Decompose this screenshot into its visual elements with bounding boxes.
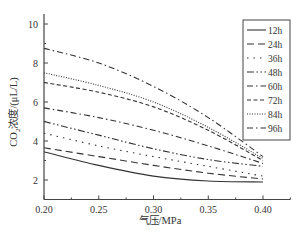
series-line-36h <box>44 133 263 176</box>
svg-text:96h: 96h <box>268 124 283 134</box>
y-tick-label: 6 <box>33 97 38 108</box>
line-chart: 2468100.200.250.300.350.40 12h24h36h48h6… <box>0 0 303 240</box>
y-tick-label: 8 <box>33 58 38 69</box>
svg-text:72h: 72h <box>268 96 283 106</box>
series-line-72h <box>44 83 263 161</box>
plot-area <box>44 48 263 182</box>
y-tick-label: 4 <box>33 136 38 147</box>
svg-text:60h: 60h <box>268 82 283 92</box>
x-tick-label: 0.30 <box>145 204 163 215</box>
series-line-84h <box>44 73 263 159</box>
x-tick-label: 0.35 <box>200 204 218 215</box>
series-line-60h <box>44 108 263 164</box>
x-tick-label: 0.40 <box>254 204 272 215</box>
svg-text:48h: 48h <box>268 68 283 78</box>
x-tick-label: 0.20 <box>35 204 53 215</box>
svg-text:36h: 36h <box>268 54 283 64</box>
series-line-96h <box>44 48 263 156</box>
legend: 12h24h36h48h60h72h84h96h <box>243 20 290 140</box>
y-tick-label: 2 <box>33 175 38 186</box>
y-tick-label: 10 <box>28 19 38 30</box>
x-axis-label: 气压/MPa <box>139 214 182 226</box>
svg-text:12h: 12h <box>268 26 283 36</box>
y-axis-label: CO2浓度/(μL/L) <box>7 77 22 147</box>
svg-text:24h: 24h <box>268 40 283 50</box>
svg-text:84h: 84h <box>268 110 283 120</box>
x-tick-label: 0.25 <box>90 204 108 215</box>
